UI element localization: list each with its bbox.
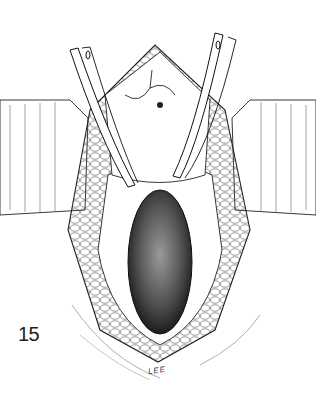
figure-number: 15 <box>18 323 39 346</box>
surgical-illustration: 15 LEE <box>0 0 316 393</box>
illustration-drawing <box>0 0 316 393</box>
